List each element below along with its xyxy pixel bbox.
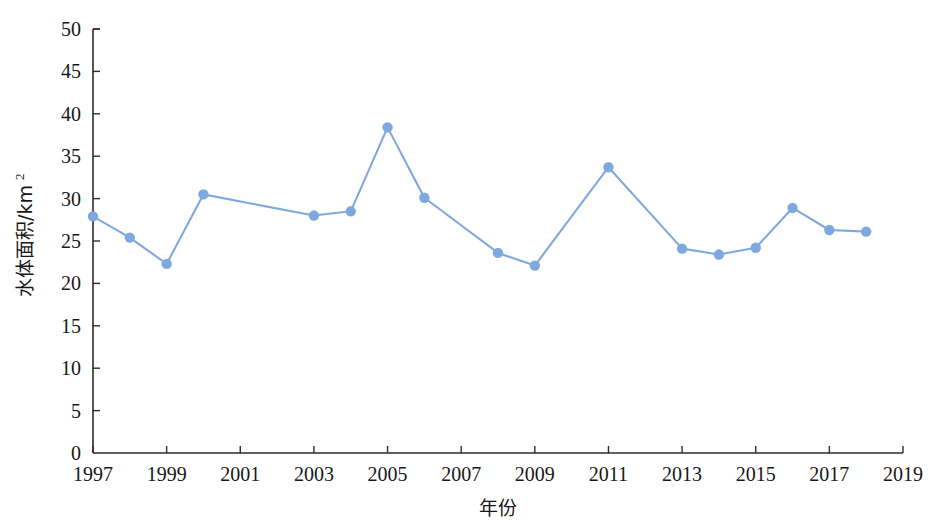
y-axis-tick-label: 5 xyxy=(71,400,81,422)
y-axis-tick-label: 40 xyxy=(61,103,81,125)
data-point-marker xyxy=(493,248,503,258)
y-axis-tick-label: 0 xyxy=(71,442,81,464)
data-point-marker xyxy=(382,122,392,132)
data-point-marker xyxy=(309,210,319,220)
data-point-marker xyxy=(677,243,687,253)
data-point-marker xyxy=(161,259,171,269)
y-axis-title-superscript: 2 xyxy=(12,174,27,181)
svg-text:水体面积/km: 水体面积/km xyxy=(14,185,36,297)
y-axis-tick-label: 15 xyxy=(61,315,81,337)
y-axis-tick-label: 30 xyxy=(61,188,81,210)
data-series xyxy=(88,122,872,271)
data-point-marker xyxy=(751,243,761,253)
y-axis-tick-label: 10 xyxy=(61,357,81,379)
x-axis-tick-label: 2003 xyxy=(294,463,334,485)
data-point-marker xyxy=(861,226,871,236)
x-axis-tick-label: 2001 xyxy=(220,463,260,485)
x-axis-tick-label: 2015 xyxy=(736,463,776,485)
data-point-marker xyxy=(824,225,834,235)
data-point-marker xyxy=(787,203,797,213)
series-line xyxy=(93,127,866,265)
data-point-marker xyxy=(346,206,356,216)
x-axis-tick-label: 2019 xyxy=(883,463,923,485)
data-point-marker xyxy=(714,249,724,259)
x-axis-tick-label: 2013 xyxy=(662,463,702,485)
data-point-marker xyxy=(88,211,98,221)
y-axis-tick-label: 20 xyxy=(61,272,81,294)
x-axis-tick-label: 2011 xyxy=(589,463,628,485)
x-axis-tick-label: 1999 xyxy=(147,463,187,485)
x-axis-tick-label: 2007 xyxy=(441,463,481,485)
x-axis: 1997199920012003200520072009201120132015… xyxy=(73,446,923,485)
y-axis-title: 水体面积/km2 xyxy=(12,174,36,297)
x-axis-tick-label: 1997 xyxy=(73,463,113,485)
data-point-marker xyxy=(530,260,540,270)
x-axis-tick-label: 2009 xyxy=(515,463,555,485)
chart-canvas: 05101520253035404550 1997199920012003200… xyxy=(0,0,933,529)
y-axis: 05101520253035404550 xyxy=(61,18,100,464)
data-point-marker xyxy=(198,189,208,199)
y-axis-tick-label: 45 xyxy=(61,60,81,82)
data-point-marker xyxy=(125,232,135,242)
y-axis-tick-label: 35 xyxy=(61,145,81,167)
y-axis-tick-label: 50 xyxy=(61,18,81,40)
x-axis-tick-label: 2017 xyxy=(809,463,849,485)
x-axis-title: 年份 xyxy=(479,497,517,519)
y-axis-tick-label: 25 xyxy=(61,230,81,252)
x-axis-tick-label: 2005 xyxy=(368,463,408,485)
line-chart: 05101520253035404550 1997199920012003200… xyxy=(0,0,933,529)
data-point-marker xyxy=(603,162,613,172)
data-point-marker xyxy=(419,193,429,203)
